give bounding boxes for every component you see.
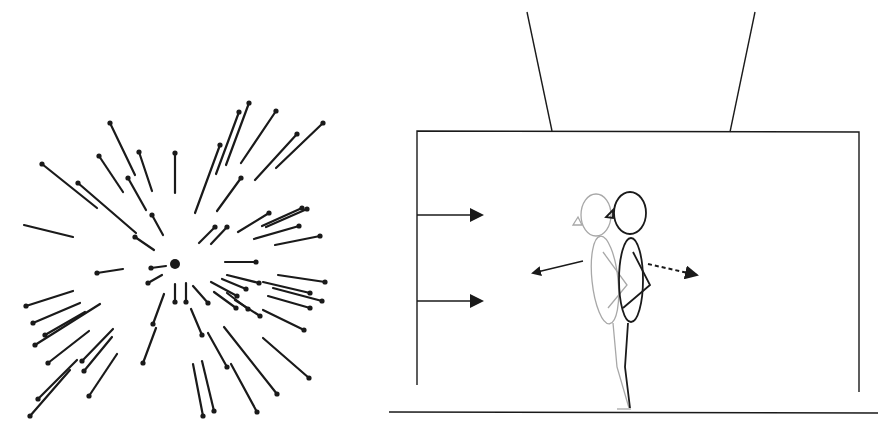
sway-arrow-dashed <box>648 264 697 275</box>
upright-figure <box>606 192 650 408</box>
suspension-rope <box>730 12 755 132</box>
upright-figure-head <box>614 192 646 234</box>
room-motion-arrows <box>417 215 482 301</box>
upright-figure-arm <box>623 252 650 308</box>
floor-line <box>389 412 878 413</box>
figure-canvas: radial optic flow field swinging room ex… <box>0 0 890 433</box>
upright-figure-nose <box>606 210 613 218</box>
sway-arrow-solid <box>533 261 583 273</box>
faded-leaning-figure <box>573 194 631 409</box>
room-suspension-ropes <box>527 12 755 132</box>
faded-figure-body <box>587 235 622 325</box>
moving-room-panel <box>0 0 890 433</box>
suspension-rope <box>527 12 552 131</box>
faded-figure-head <box>581 194 611 236</box>
